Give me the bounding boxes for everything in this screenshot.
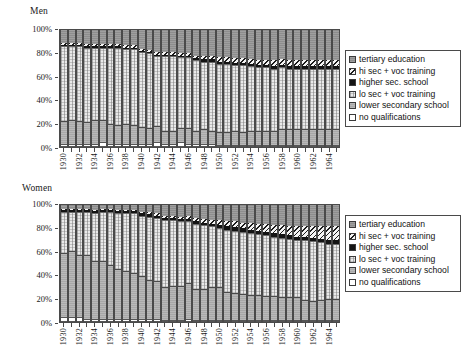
bar-column[interactable] [239, 205, 247, 322]
legend-item[interactable]: hi sec + voc training [349, 66, 457, 78]
bar-column[interactable] [161, 30, 169, 147]
legend-swatch-icon [349, 279, 356, 286]
bar-column[interactable] [309, 205, 317, 322]
legend-item[interactable]: lower secondary school [349, 100, 457, 112]
bar-column[interactable] [114, 30, 122, 147]
bar-column[interactable] [293, 30, 301, 147]
legend-item[interactable]: lower secondary school [349, 265, 457, 277]
bar-column[interactable] [130, 205, 138, 322]
bar-column[interactable] [200, 205, 208, 322]
bar-column[interactable] [76, 205, 84, 322]
bar-column[interactable] [317, 30, 325, 147]
bar-column[interactable] [255, 30, 263, 147]
bar-column[interactable] [107, 30, 115, 147]
bar-column[interactable] [286, 30, 294, 147]
legend-item[interactable]: lo sec + voc training [349, 254, 457, 266]
bar-column[interactable] [138, 205, 146, 322]
bar-segment [326, 320, 332, 322]
bar-column[interactable] [91, 30, 99, 147]
legend-item[interactable]: hi sec + voc training [349, 231, 457, 243]
legend-label: higher sec. school [359, 242, 428, 254]
bar-column[interactable] [68, 30, 76, 147]
bar-column[interactable] [76, 30, 84, 147]
legend-item[interactable]: higher sec. school [349, 77, 457, 89]
bar-column[interactable] [169, 205, 177, 322]
bar-column[interactable] [278, 30, 286, 147]
bar-column[interactable] [146, 30, 154, 147]
bar-column[interactable] [325, 205, 333, 322]
bar-column[interactable] [208, 205, 216, 322]
bar-column[interactable] [231, 205, 239, 322]
bar-column[interactable] [83, 205, 91, 322]
bar-column[interactable] [146, 205, 154, 322]
bar-segment [154, 55, 160, 56]
bar-column[interactable] [68, 205, 76, 322]
bar-segment [302, 226, 308, 237]
bar-column[interactable] [216, 205, 224, 322]
bar-column[interactable] [161, 205, 169, 322]
bar-column[interactable] [138, 30, 146, 147]
bar-column[interactable] [293, 205, 301, 322]
bar-segment [115, 125, 121, 144]
y-tick-mark [55, 29, 58, 30]
bar-column[interactable] [278, 205, 286, 322]
bar-column[interactable] [309, 30, 317, 147]
bar-column[interactable] [239, 30, 247, 147]
bar-column[interactable] [114, 205, 122, 322]
bar-column[interactable] [231, 30, 239, 147]
bar-segment [279, 129, 285, 144]
bar-column[interactable] [60, 205, 68, 322]
legend-item[interactable]: no qualifications [349, 112, 457, 124]
bar-column[interactable] [325, 30, 333, 147]
bar-column[interactable] [301, 30, 309, 147]
bar-column[interactable] [83, 30, 91, 147]
bar-segment [294, 297, 300, 319]
legend-item[interactable]: tertiary education [349, 54, 457, 66]
bar-column[interactable] [255, 205, 263, 322]
bar-column[interactable] [208, 30, 216, 147]
bar-segment [92, 261, 98, 318]
bar-column[interactable] [153, 30, 161, 147]
bar-column[interactable] [247, 30, 255, 147]
bar-column[interactable] [332, 30, 340, 147]
legend-item[interactable]: lo sec + voc training [349, 89, 457, 101]
bar-column[interactable] [192, 30, 200, 147]
bar-column[interactable] [177, 30, 185, 147]
bar-column[interactable] [301, 205, 309, 322]
bar-column[interactable] [270, 30, 278, 147]
bar-segment [100, 212, 106, 261]
legend-item[interactable]: no qualifications [349, 277, 457, 289]
bar-column[interactable] [99, 30, 107, 147]
bar-column[interactable] [200, 30, 208, 147]
bar-column[interactable] [185, 30, 193, 147]
bar-column[interactable] [91, 205, 99, 322]
bar-column[interactable] [247, 205, 255, 322]
bar-segment [61, 144, 67, 148]
bar-column[interactable] [223, 205, 231, 322]
bar-column[interactable] [262, 205, 270, 322]
bar-column[interactable] [270, 205, 278, 322]
bar-column[interactable] [153, 205, 161, 322]
bar-segment [186, 216, 192, 220]
bar-column[interactable] [216, 30, 224, 147]
bar-column[interactable] [99, 205, 107, 322]
bar-segment [256, 224, 262, 231]
bar-column[interactable] [130, 30, 138, 147]
bar-segment [92, 120, 98, 143]
bar-column[interactable] [122, 30, 130, 147]
bar-column[interactable] [286, 205, 294, 322]
bar-column[interactable] [60, 30, 68, 147]
legend-item[interactable]: higher sec. school [349, 242, 457, 254]
bar-column[interactable] [223, 30, 231, 147]
bar-column[interactable] [185, 205, 193, 322]
bar-column[interactable] [122, 205, 130, 322]
bar-column[interactable] [262, 30, 270, 147]
bar-column[interactable] [332, 205, 340, 322]
bar-column[interactable] [317, 205, 325, 322]
bar-column[interactable] [169, 30, 177, 147]
legend-item[interactable]: tertiary education [349, 219, 457, 231]
bar-column[interactable] [177, 205, 185, 322]
bar-column[interactable] [107, 205, 115, 322]
bar-column[interactable] [192, 205, 200, 322]
bar-segment [77, 43, 83, 45]
